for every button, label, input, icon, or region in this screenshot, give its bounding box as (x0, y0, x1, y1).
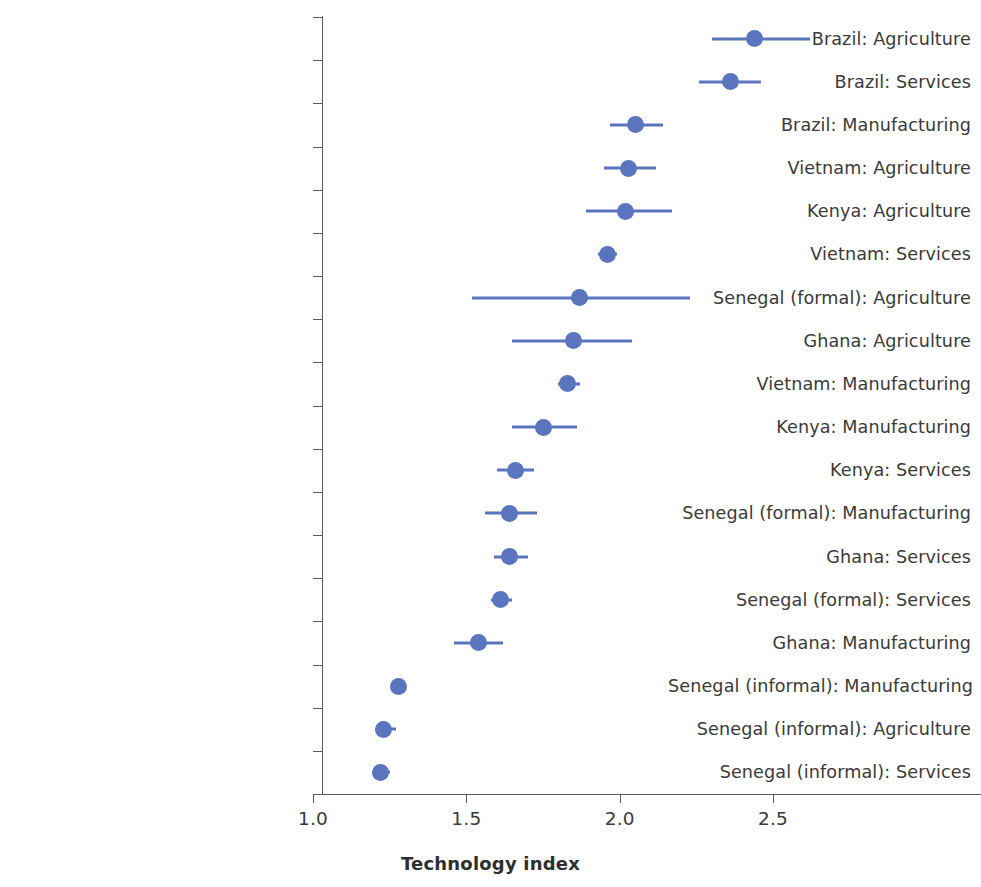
y-axis-category-label: Vietnam: Services (668, 244, 981, 264)
data-point-marker (565, 332, 582, 349)
y-axis-tick (313, 190, 322, 191)
y-axis-tick (313, 449, 322, 450)
data-point-marker (722, 73, 739, 90)
y-axis-category-label: Ghana: Manufacturing (668, 633, 981, 653)
y-axis-category-label: Senegal (formal): Manufacturing (668, 503, 981, 523)
x-axis-tick-label: 1.0 (298, 808, 328, 829)
data-point-marker (620, 160, 637, 177)
y-axis-category-label: Senegal (formal): Services (668, 590, 981, 610)
y-axis-category-label: Kenya: Services (668, 460, 981, 480)
x-axis-tick-label: 2.0 (605, 808, 635, 829)
data-point-marker (627, 116, 644, 133)
technology-index-dot-plot: Brazil: AgricultureBrazil: ServicesBrazi… (0, 0, 981, 887)
data-point-marker (535, 419, 552, 436)
data-point-marker (372, 764, 389, 781)
y-axis-category-label: Vietnam: Agriculture (668, 158, 981, 178)
data-point-marker (559, 375, 576, 392)
data-point-marker (470, 634, 487, 651)
y-axis-tick (313, 233, 322, 234)
x-axis-tick-label: 1.5 (451, 808, 481, 829)
y-axis-tick (313, 794, 322, 795)
y-axis-tick (313, 535, 322, 536)
data-point-marker (571, 289, 588, 306)
data-point-marker (617, 203, 634, 220)
data-point-marker (501, 505, 518, 522)
x-axis-title: Technology index (0, 853, 981, 874)
data-point-marker (492, 591, 509, 608)
x-axis-tick (773, 794, 774, 803)
data-point-marker (390, 678, 407, 695)
y-axis-category-label: Ghana: Agriculture (668, 331, 981, 351)
x-axis-tick-label: 2.5 (758, 808, 788, 829)
y-axis-tick (313, 319, 322, 320)
y-axis-tick (313, 621, 322, 622)
y-axis-tick (313, 708, 322, 709)
y-axis-tick (313, 751, 322, 752)
y-axis-tick (313, 147, 322, 148)
data-point-marker (507, 462, 524, 479)
y-axis-category-label: Kenya: Agriculture (668, 201, 981, 221)
y-axis-category-label: Senegal (formal): Agriculture (668, 288, 981, 308)
y-axis-tick (313, 17, 322, 18)
y-axis-tick (313, 492, 322, 493)
x-axis-tick (313, 794, 314, 803)
y-axis-tick (313, 103, 322, 104)
y-axis-spine (322, 16, 323, 795)
y-axis-tick (313, 665, 322, 666)
x-axis-tick (466, 794, 467, 803)
y-axis-category-label: Senegal (informal): Services (668, 762, 981, 782)
y-axis-tick (313, 578, 322, 579)
y-axis-category-label: Vietnam: Manufacturing (668, 374, 981, 394)
data-point-marker (599, 246, 616, 263)
y-axis-tick (313, 276, 322, 277)
y-axis-category-label: Ghana: Services (668, 547, 981, 567)
y-axis-tick (313, 60, 322, 61)
y-axis-tick (313, 362, 322, 363)
y-axis-tick (313, 406, 322, 407)
data-point-marker (375, 721, 392, 738)
y-axis-category-label: Senegal (informal): Agriculture (668, 719, 981, 739)
y-axis-category-label: Senegal (informal): Manufacturing (668, 676, 981, 696)
y-axis-category-label: Brazil: Manufacturing (668, 115, 981, 135)
y-axis-category-label: Kenya: Manufacturing (668, 417, 981, 437)
data-point-marker (501, 548, 518, 565)
x-axis-tick (620, 794, 621, 803)
x-axis-spine (313, 794, 981, 795)
